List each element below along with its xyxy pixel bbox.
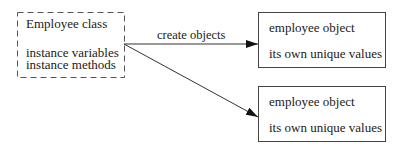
arrow-to-object-2 <box>124 44 258 117</box>
class-title: Employee class <box>26 17 107 31</box>
employee-object-box: employee object its own unique values <box>258 12 386 68</box>
object-subtitle: its own unique values <box>269 121 382 135</box>
class-line-instance-methods: instance methods <box>26 58 116 72</box>
employee-object-box: employee object its own unique values <box>258 86 386 142</box>
employee-class-box: Employee class instance variables instan… <box>17 12 125 78</box>
object-subtitle: its own unique values <box>269 47 382 61</box>
object-title: employee object <box>269 95 355 109</box>
object-title: employee object <box>269 21 355 35</box>
arrow-label: create objects <box>157 28 225 42</box>
